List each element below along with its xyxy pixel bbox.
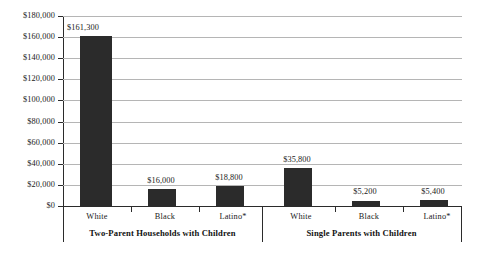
gridline-20000	[63, 185, 462, 186]
x-axis-label-single-parent-white: White	[270, 212, 332, 221]
bar-two-parent-latino[interactable]	[216, 186, 244, 206]
bar-value-text: $35,800	[283, 155, 311, 164]
gridline-100000	[63, 100, 462, 101]
gridline-60000	[63, 143, 462, 144]
y-axis-label-80000: $80,000	[0, 117, 55, 126]
x-axis-label-text: White	[290, 212, 311, 221]
gridline-140000	[63, 58, 462, 59]
y-axis-label-100000: $100,000	[0, 95, 55, 104]
x-axis-label-text: White	[86, 212, 107, 221]
y-axis-label-text: $180,000	[23, 11, 55, 20]
y-axis-label-text: $120,000	[23, 74, 55, 83]
bar-value-two-parent-black: $16,000	[130, 176, 192, 185]
y-axis-label-text: $160,000	[23, 32, 55, 41]
group-label-text: Single Parents with Children	[306, 228, 416, 238]
gridline-180000	[63, 16, 462, 17]
bar-value-single-parent-latino: $5,400	[402, 187, 464, 196]
bar-value-single-parent-black: $5,200	[334, 187, 396, 196]
y-axis-label-text: $100,000	[23, 95, 55, 104]
bar-value-single-parent-white: $35,800	[266, 155, 328, 164]
group-label-text: Two-Parent Households with Children	[89, 228, 235, 238]
x-axis-label-single-parent-black: Black	[338, 212, 400, 221]
x-axis-label-text: Latino*	[219, 212, 246, 221]
bar-single-parent-white[interactable]	[284, 168, 312, 206]
gridline-80000	[63, 122, 462, 123]
x-axis-label-text: Black	[155, 212, 175, 221]
y-axis-label-text: $20,000	[27, 180, 55, 189]
bar-value-text: $5,400	[421, 187, 444, 196]
y-axis-label-140000: $140,000	[0, 53, 55, 62]
gridline-40000	[63, 164, 462, 165]
x-axis-label-two-parent-latino: Latino*	[202, 212, 264, 221]
y-axis-label-text: $40,000	[27, 159, 55, 168]
bar-chart: $180,000 $160,000 $140,000 $120,000 $100…	[0, 0, 485, 253]
bar-value-text: $18,800	[215, 173, 243, 182]
bar-value-text: $5,200	[353, 187, 376, 196]
y-axis-label-text: $80,000	[27, 117, 55, 126]
group-frame-right-edge	[461, 206, 462, 242]
bar-value-text: $161,300	[67, 23, 99, 32]
bar-two-parent-black[interactable]	[148, 189, 176, 206]
x-axis-tick	[335, 207, 336, 212]
bar-single-parent-latino[interactable]	[420, 200, 448, 206]
x-axis-tick	[131, 207, 132, 212]
group-label-two-parent-households: Two-Parent Households with Children	[63, 228, 262, 238]
x-axis-label-two-parent-white: White	[66, 212, 128, 221]
y-axis-label-text: $140,000	[23, 53, 55, 62]
bar-value-two-parent-white: $161,300	[52, 23, 114, 32]
x-axis-tick	[403, 207, 404, 212]
y-axis-label-20000: $20,000	[0, 180, 55, 189]
gridline-120000	[63, 79, 462, 80]
y-axis-label-60000: $60,000	[0, 138, 55, 147]
x-axis-label-text: Black	[359, 212, 379, 221]
y-axis-label-120000: $120,000	[0, 74, 55, 83]
x-axis-tick	[199, 207, 200, 212]
y-axis-label-40000: $40,000	[0, 159, 55, 168]
y-axis-label-180000: $180,000	[0, 11, 55, 20]
x-axis-label-text: Latino*	[423, 212, 450, 221]
y-axis-label-160000: $160,000	[0, 32, 55, 41]
bar-value-text: $16,000	[147, 176, 175, 185]
bar-value-two-parent-latino: $18,800	[198, 173, 260, 182]
bar-two-parent-white[interactable]	[80, 36, 112, 206]
x-axis-label-single-parent-latino: Latino*	[406, 212, 468, 221]
gridline-160000	[63, 37, 462, 38]
y-axis-label-0: $0	[0, 201, 55, 210]
plot-area	[63, 16, 462, 206]
y-axis-label-text: $60,000	[27, 138, 55, 147]
group-label-single-parents: Single Parents with Children	[262, 228, 461, 238]
x-axis-label-two-parent-black: Black	[134, 212, 196, 221]
bar-single-parent-black[interactable]	[352, 201, 380, 206]
y-axis-label-text: $0	[47, 201, 56, 210]
